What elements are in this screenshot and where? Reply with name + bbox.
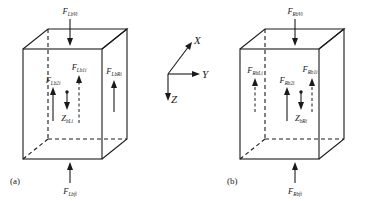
box-b-top-face [240,29,344,49]
dimension-arrow-a-z [64,90,70,110]
force-label-b-bottom: FRbfi [287,186,302,197]
box-b-hidden-diagonal-edge [240,139,265,159]
panel-caption-a: (a) [10,176,20,186]
box-a [23,29,127,159]
free-body-diagram: FLbVi FLb2i FLb1i FLbRi [0,0,366,201]
panel-a: FLbVi FLb2i FLb1i FLbRi [10,6,127,197]
force-label-b-inner-mid: FRb2i [278,75,295,86]
force-label-a-inner-right: FLbRi [105,66,122,77]
dimension-arrow-b-z [298,90,304,110]
axis-label-y: Y [202,68,210,80]
force-arrow-b-inner-right [309,78,315,112]
box-a-hidden-diagonal-edge [23,139,48,159]
force-arrow-b-top [292,19,298,46]
force-arrow-b-inner-mid [284,87,290,121]
force-label-b-inner-left: FRbLi [246,65,263,76]
force-arrow-a-inner-left [50,87,56,121]
force-label-b-inner-right: FRb1i [301,64,318,75]
force-label-a-bottom: FLbfi [62,186,77,197]
panel-caption-b: (b) [227,176,238,186]
force-label-b-top: FRbVi [286,6,303,17]
coordinate-axes: X Y Z [165,34,210,105]
force-label-a-inner-mid: FLb1i [71,62,87,73]
axis-arrow-x [185,42,192,50]
force-arrow-a-inner-right [111,80,117,112]
force-arrow-a-top [67,19,73,46]
box-a-top-face [23,29,127,49]
dimension-label-b-z: ZbRi [295,113,307,124]
force-arrow-a-bottom [67,162,73,183]
axis-line-x [168,46,189,74]
force-arrow-b-inner-left [252,78,258,112]
force-arrow-b-bottom [292,162,298,183]
box-a-front-face [23,49,102,159]
box-b [240,29,344,159]
force-label-a-inner-left: FLb2i [45,75,61,86]
panel-b: FRbVi FRbLi FRb2i FRb1i [227,6,344,197]
force-label-a-top: FLbVi [62,6,78,17]
axis-label-x: X [193,34,202,46]
axis-arrow-y [192,71,200,77]
axis-label-z: Z [171,93,178,105]
figure-container: FLbVi FLb2i FLb1i FLbRi [0,0,366,201]
dimension-label-a-z: ZbLi [61,113,73,124]
force-arrow-a-inner-mid [76,75,82,123]
